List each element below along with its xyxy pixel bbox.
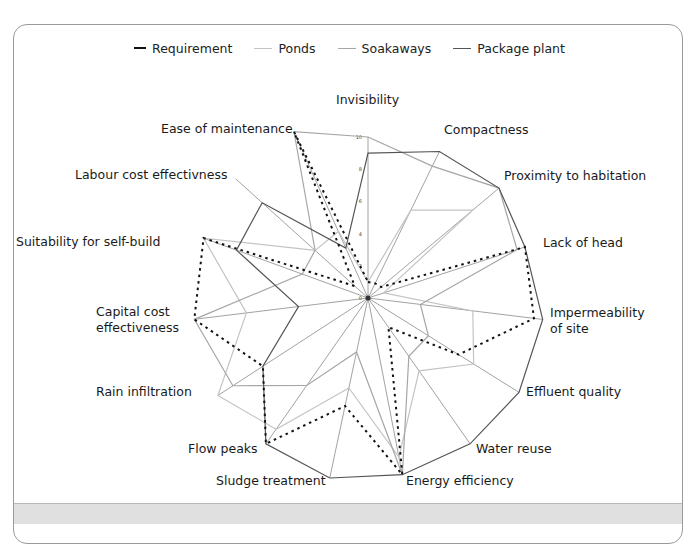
scale-tick-label: 6 — [359, 198, 362, 204]
axis-label: Rain infiltration — [96, 384, 192, 400]
axis-spoke — [368, 151, 439, 298]
axis-spoke — [368, 247, 525, 298]
axis-label: Compactness — [444, 122, 529, 138]
axis-label: Ease of maintenance — [161, 121, 293, 137]
axis-label: Sludge treatment — [216, 473, 326, 489]
axis-label: Labour cost effectivness — [75, 167, 227, 183]
axis-spoke — [218, 298, 368, 395]
axis-spoke — [368, 298, 402, 475]
series-ponds — [204, 210, 474, 457]
scale-tick-label: 8 — [359, 166, 362, 172]
axis-label: Energy efficiency — [406, 473, 514, 489]
axis-spoke — [368, 298, 543, 319]
axis-label: Impermeabilityof site — [550, 305, 645, 337]
axis-label: Water reuse — [476, 441, 552, 457]
axis-label: Invisibility — [336, 92, 399, 108]
scale-tick-label: 0 — [359, 295, 362, 301]
axis-label: Lack of head — [543, 235, 623, 251]
axis-spoke — [368, 298, 519, 392]
chart-center — [366, 296, 371, 301]
series-soakaways — [194, 132, 517, 475]
series-package-plant — [236, 151, 542, 477]
axis-label: Proximity to habitation — [504, 168, 646, 184]
axis-label: Capital costeffectiveness — [96, 304, 179, 336]
axis-label: Flow peaks — [188, 441, 258, 457]
scale-tick-label: 4 — [359, 231, 362, 237]
axis-label: Suitability for self-build — [16, 234, 160, 250]
axis-spoke — [294, 132, 368, 298]
axis-label: Effluent quality — [526, 384, 621, 400]
axis-spoke — [368, 188, 499, 298]
